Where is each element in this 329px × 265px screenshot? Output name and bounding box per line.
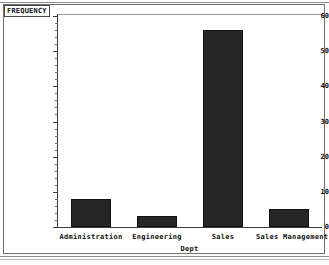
x-axis-tick-label: Sales bbox=[190, 233, 256, 241]
x-axis-title: Dept bbox=[57, 245, 322, 253]
y-axis-tick-minor bbox=[55, 93, 58, 94]
y-axis-tick-minor bbox=[55, 150, 58, 151]
y-axis-tick-minor bbox=[55, 23, 58, 24]
y-axis-tick-minor bbox=[55, 164, 58, 165]
y-axis-tick-major bbox=[53, 157, 58, 158]
y-axis-tick-major bbox=[53, 122, 58, 123]
y-axis-tick-label: 30 bbox=[279, 119, 329, 126]
bottom-rule-secondary bbox=[0, 259, 329, 260]
y-axis-tick-minor bbox=[55, 58, 58, 59]
y-axis-tick-minor bbox=[55, 171, 58, 172]
y-axis-tick-major bbox=[53, 227, 58, 228]
y-axis-tick-minor bbox=[55, 44, 58, 45]
y-axis-tick-minor bbox=[55, 107, 58, 108]
y-axis-tick-minor bbox=[55, 30, 58, 31]
chart-figure: FREQUENCY 0102030405060 AdministrationEn… bbox=[0, 0, 329, 265]
y-axis-tick-minor bbox=[55, 79, 58, 80]
y-axis-tick-minor bbox=[55, 143, 58, 144]
y-axis-tick-minor bbox=[55, 129, 58, 130]
y-axis-tick-minor bbox=[55, 65, 58, 66]
y-axis-tick-major bbox=[53, 86, 58, 87]
y-axis-tick-label: 40 bbox=[279, 83, 329, 90]
bar bbox=[71, 199, 111, 227]
y-axis-tick-minor bbox=[55, 206, 58, 207]
x-axis-tick-label: Sales Management bbox=[256, 233, 322, 241]
y-axis-tick-label: 10 bbox=[279, 189, 329, 196]
y-axis-tick-minor bbox=[55, 136, 58, 137]
y-axis-tick-minor bbox=[55, 37, 58, 38]
y-axis-tick-minor bbox=[55, 199, 58, 200]
y-axis-tick-minor bbox=[55, 213, 58, 214]
x-axis-tick-label: Administration bbox=[58, 233, 124, 241]
y-axis-tick-minor bbox=[55, 185, 58, 186]
y-axis-tick-minor bbox=[55, 100, 58, 101]
bottom-rule bbox=[0, 256, 329, 257]
y-axis-tick-label: 60 bbox=[279, 13, 329, 20]
bar bbox=[203, 30, 243, 227]
y-axis-tick-minor bbox=[55, 114, 58, 115]
y-axis-line bbox=[57, 14, 58, 228]
y-axis-tick-minor bbox=[55, 178, 58, 179]
y-axis-tick-major bbox=[53, 16, 58, 17]
x-axis-tick-label: Engineering bbox=[124, 233, 190, 241]
bar bbox=[269, 209, 309, 227]
plot-area: 0102030405060 AdministrationEngineeringS… bbox=[0, 0, 329, 265]
y-axis-tick-major bbox=[53, 192, 58, 193]
bar bbox=[137, 216, 177, 227]
y-axis-tick-minor bbox=[55, 220, 58, 221]
y-axis-tick-label: 50 bbox=[279, 48, 329, 55]
y-axis-title-box: FREQUENCY bbox=[4, 5, 50, 17]
y-axis-tick-minor bbox=[55, 72, 58, 73]
y-axis-tick-label: 20 bbox=[279, 154, 329, 161]
y-axis-tick-major bbox=[53, 51, 58, 52]
